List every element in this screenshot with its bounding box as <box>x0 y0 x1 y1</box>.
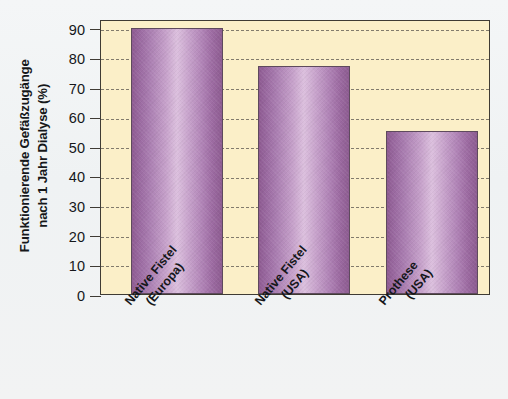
y-axis-tick-mark <box>90 29 101 30</box>
y-axis-tick-mark <box>90 59 101 60</box>
y-axis-tick-label: 80 <box>69 52 85 67</box>
y-axis-tick-label: 30 <box>69 200 85 215</box>
y-axis-tick-mark <box>90 207 101 208</box>
y-axis-tick-label: 50 <box>69 140 85 155</box>
y-axis-tick-label: 10 <box>69 259 85 274</box>
y-axis-tick-mark <box>90 296 101 297</box>
y-axis-tick-mark <box>90 266 101 267</box>
y-axis-tick-mark <box>90 177 101 178</box>
y-axis-tick-label: 40 <box>69 170 85 185</box>
y-axis-tick-label: 20 <box>69 229 85 244</box>
y-axis-tick-label: 0 <box>77 288 85 303</box>
y-axis-tick-label: 90 <box>69 22 85 37</box>
y-axis-tick-mark <box>90 148 101 149</box>
y-axis-tick-mark <box>90 118 101 119</box>
y-axis-tick-mark <box>90 236 101 237</box>
y-axis-tick-mark <box>90 89 101 90</box>
y-axis-tick-label: 60 <box>69 111 85 126</box>
y-axis-tick-label: 70 <box>69 81 85 96</box>
